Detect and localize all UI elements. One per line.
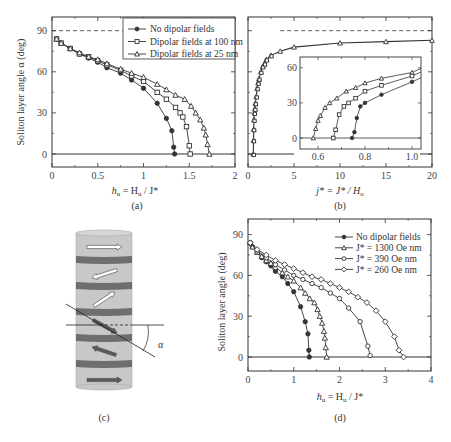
legend-label: Dipolar fields at 25 nm (150, 49, 239, 59)
marker-open-square (187, 144, 191, 148)
marker-open-triangle (292, 45, 297, 49)
marker-open-square (380, 84, 384, 88)
marker-open-square (410, 74, 414, 78)
marker-open-circle (346, 306, 350, 310)
marker-filled-circle (380, 93, 384, 97)
marker-open-square (173, 105, 177, 109)
panel-label-d: (d) (334, 412, 346, 424)
marker-filled-circle (286, 281, 290, 285)
inset-y-tick-label: 30 (287, 97, 297, 108)
marker-open-square (342, 105, 346, 109)
y-tick-label: 90 (233, 229, 243, 240)
marker-open-diamond (327, 281, 333, 287)
x-tick-label: 20 (427, 170, 437, 181)
legend: No dipolar fieldsDipolar fields at 100 n… (123, 18, 243, 59)
marker-open-diamond (300, 270, 306, 276)
y-tick-label: 0 (42, 149, 47, 160)
marker-open-square (255, 96, 258, 99)
y-tick-label: 60 (37, 66, 47, 77)
marker-filled-circle (306, 332, 310, 336)
marker-open-diamond (355, 294, 361, 300)
marker-open-square (258, 78, 261, 81)
marker-open-triangle (430, 38, 435, 42)
marker-open-triangle (315, 307, 320, 312)
marker-open-diamond (346, 289, 352, 295)
marker-filled-circle (307, 355, 311, 359)
marker-open-diamond (291, 266, 297, 272)
angle-arc (143, 325, 148, 351)
x-axis-label: hu = Hu / J* (317, 391, 364, 404)
marker-open-square (256, 88, 259, 91)
panel-d: 012340306090No dipolar fieldsJ* = 1300 O… (216, 219, 434, 424)
marker-open-square (155, 90, 159, 94)
marker-open-triangle (198, 117, 203, 122)
marker-open-square (181, 115, 185, 119)
panel-label-b: (b) (334, 200, 346, 212)
marker-open-circle (301, 277, 305, 281)
marker-open-triangle (205, 142, 210, 147)
marker-filled-circle (171, 145, 175, 149)
marker-open-square (254, 103, 257, 106)
marker-open-diamond (337, 285, 343, 291)
marker-open-circle (319, 285, 323, 289)
marker-filled-circle (141, 86, 145, 90)
x-axis-label: j* = J* / Hu (314, 185, 364, 198)
x-tick-label: 4 (429, 374, 434, 385)
marker-open-circle (310, 281, 314, 285)
marker-open-diamond (342, 267, 347, 272)
marker-open-diamond (318, 277, 324, 283)
marker-filled-circle (355, 116, 359, 120)
marker-open-triangle (322, 335, 327, 340)
x-label-part: = H (120, 185, 138, 196)
cylinder-top (76, 230, 132, 236)
marker-open-square (270, 55, 273, 58)
cylinder-band (76, 256, 132, 264)
marker-open-square (188, 152, 192, 156)
alpha-label: α (158, 339, 164, 350)
marker-open-triangle (193, 110, 198, 115)
marker-open-circle (368, 353, 372, 357)
legend-label: No dipolar fields (356, 232, 421, 242)
marker-filled-circle (350, 136, 354, 140)
panel-c: α(c) (66, 230, 164, 424)
marker-filled-circle (172, 152, 176, 156)
marker-open-triangle (182, 97, 187, 102)
marker-open-diamond (392, 334, 398, 340)
x-tick-label: 10 (335, 170, 345, 181)
marker-open-triangle (323, 345, 328, 350)
marker-open-triangle (173, 92, 178, 97)
inset-x-tick-label: 0.8 (359, 151, 372, 162)
cylinder-bottom (76, 384, 132, 390)
figure-canvas: 00.511.520306090No dipolar fieldsDipolar… (0, 0, 451, 442)
marker-open-square (135, 40, 139, 44)
marker-open-square (257, 82, 260, 85)
legend-label: No dipolar fields (150, 24, 215, 34)
marker-filled-circle (164, 116, 168, 120)
marker-open-triangle (342, 246, 347, 250)
marker-filled-circle (363, 101, 367, 105)
marker-filled-circle (353, 130, 357, 134)
panel-label-c: (c) (98, 412, 109, 424)
marker-open-triangle (278, 49, 283, 53)
legend-label: Dipolar fields at 100 nm (150, 37, 243, 47)
x-label-part: j* = J* / H (314, 185, 361, 196)
marker-open-square (260, 71, 263, 74)
marker-open-triangle (291, 278, 296, 283)
marker-open-diamond (273, 258, 279, 264)
x-label-part: = H (325, 391, 343, 402)
marker-open-circle (282, 268, 286, 272)
x-tick-label: 0 (50, 170, 55, 181)
marker-open-triangle (155, 81, 160, 86)
marker-filled-circle (298, 304, 302, 308)
marker-open-triangle (319, 320, 324, 325)
marker-open-square (184, 124, 188, 128)
marker-open-square (164, 97, 168, 101)
marker-filled-circle (170, 129, 174, 133)
legend-label: J* = 1300 Oe nm (356, 243, 422, 253)
x-tick-label: 1 (141, 170, 146, 181)
marker-open-square (334, 128, 338, 132)
marker-open-circle (328, 291, 332, 295)
x-tick-label: 5 (292, 170, 297, 181)
marker-open-triangle (201, 125, 206, 130)
marker-open-circle (342, 257, 346, 261)
